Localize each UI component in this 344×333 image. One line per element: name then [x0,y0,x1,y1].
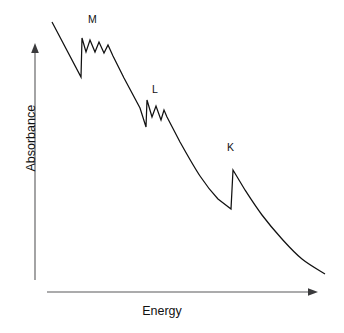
y-axis-label: Absorbance [25,83,38,193]
x-axis-arrowhead-icon [308,288,318,296]
spectrum-plot-area [0,0,344,333]
absorbance-curve [52,22,325,274]
edge-label-k: K [227,142,234,153]
x-axis-label: Energy [47,305,277,318]
absorption-spectrum-figure: Absorbance Energy M L K [0,0,344,333]
edge-label-m: M [88,14,97,25]
edge-label-l: L [152,84,158,95]
y-axis-arrowhead-icon [31,43,39,53]
